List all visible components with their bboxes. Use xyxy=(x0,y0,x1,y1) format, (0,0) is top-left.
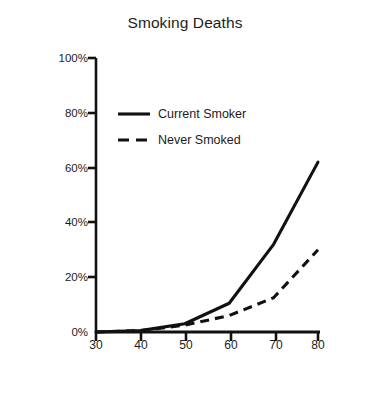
legend-label-never-smoked: Never Smoked xyxy=(158,133,241,147)
chart-legend: Current Smoker Never Smoked xyxy=(0,0,370,397)
legend-label-current-smoker: Current Smoker xyxy=(158,107,246,121)
chart-figure: Smoking Deaths Probability of Death 100%… xyxy=(0,0,370,397)
